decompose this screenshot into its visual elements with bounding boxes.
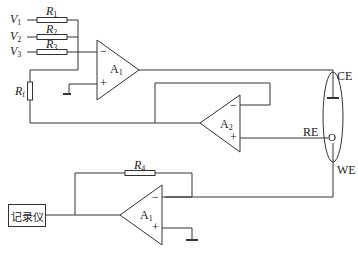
- amplifier-a1-top-plus: +: [100, 77, 107, 89]
- recorder-box: 记录仪: [8, 204, 46, 227]
- resistor-r1-label: R1: [46, 5, 57, 19]
- amplifier-a1-bottom-label: A1: [140, 209, 153, 223]
- input-v3-label: V3: [10, 45, 21, 59]
- amplifier-a1-bottom-minus: −: [152, 191, 159, 203]
- amplifier-a1-top-minus: −: [100, 45, 107, 57]
- resistor-r4-label: R4: [134, 159, 145, 173]
- resistor-r3-label: R3: [46, 38, 57, 52]
- reference-electrode-marker: O: [328, 132, 336, 143]
- amplifier-a2-plus: +: [230, 131, 237, 143]
- resistor-rf-label: Rf: [15, 85, 25, 99]
- counter-electrode-label: CE: [337, 70, 352, 82]
- input-v1-label: V1: [10, 13, 21, 27]
- amplifier-a1-top-label: A1: [110, 63, 123, 77]
- amplifier-a2: [155, 83, 328, 152]
- reference-electrode-label: RE: [303, 126, 318, 138]
- amplifier-a2-minus: −: [230, 99, 237, 111]
- rf-feedback: [28, 70, 156, 123]
- amplifier-a1-bottom-plus: +: [152, 221, 159, 233]
- circuit-diagram: V1 V2 V3 R1 R2 R3 Rf R4 A1 − + A2 − + A1…: [0, 0, 358, 258]
- resistor-r2-label: R2: [46, 23, 57, 37]
- working-electrode-label: WE: [337, 164, 356, 176]
- input-v2-label: V2: [10, 30, 21, 44]
- amplifier-a1-bottom: [45, 171, 198, 246]
- input-resistor-network: [27, 18, 97, 71]
